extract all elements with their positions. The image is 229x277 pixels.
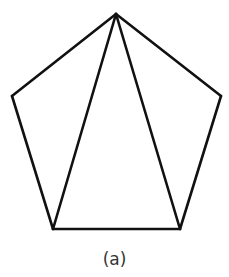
edge-top-right — [116, 14, 221, 96]
pentagon-edges — [12, 14, 221, 229]
diagonal-top-bottom_right — [116, 14, 180, 229]
figure-caption: (a) — [0, 249, 229, 269]
edge-bottom_left-left — [12, 96, 53, 229]
edge-left-top — [12, 14, 116, 96]
pentagon-diagonals — [53, 14, 180, 229]
diagonal-top-bottom_left — [53, 14, 116, 229]
edge-right-bottom_right — [180, 96, 221, 229]
pentagon-diagram — [0, 0, 229, 277]
